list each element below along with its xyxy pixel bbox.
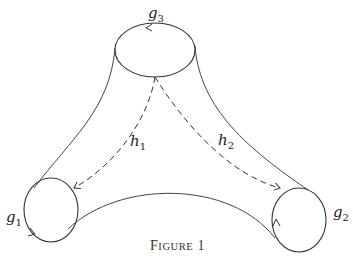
figure-caption: FIGURE1 [150, 238, 205, 253]
label-g1: g1 [6, 208, 22, 228]
boundary-g1 [24, 178, 78, 242]
label-h1: h1 [130, 132, 146, 152]
right-side-outline [195, 46, 308, 190]
bottom-outline [68, 193, 275, 238]
label-g3: g3 [148, 4, 164, 24]
g2-direction-arrow-icon [273, 219, 280, 226]
pair-of-pants-diagram: g3 g1 g2 h1 h2 FIGURE1 [0, 0, 353, 257]
boundary-g2 [272, 188, 326, 252]
label-g2: g2 [333, 203, 349, 223]
boundary-g3 [115, 23, 195, 77]
arc-h1 [74, 77, 155, 188]
label-h2: h2 [218, 131, 234, 151]
g3-direction-arrow-icon [146, 24, 152, 31]
